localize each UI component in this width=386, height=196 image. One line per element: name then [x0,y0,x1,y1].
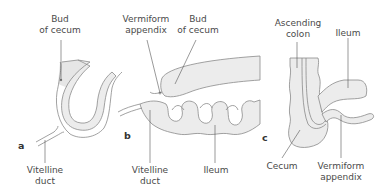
panel-b-drawing [118,56,260,135]
label-ileum-b: Ileum [203,165,228,176]
panel-letter-b: b [124,130,131,141]
label-bud-of-cecum-b: Bud of cecum [177,14,218,36]
label-bud-of-cecum-a: Bud of cecum [39,14,80,36]
panel-a-leaders [45,40,62,163]
diagram-figure: a b c Bud of cecum Vitelline duct Vermif… [0,0,386,196]
label-ascending-colon-c: Ascending colon [275,18,322,40]
panel-a-drawing [36,60,122,146]
panel-letter-a: a [18,140,24,151]
panel-letter-c: c [262,132,268,143]
label-vermiform-appendix-b: Vermiform appendix [123,14,170,36]
label-cecum-c: Cecum [266,161,297,172]
label-vermiform-appendix-c: Vermiform appendix [318,161,365,183]
label-vitelline-duct-b: Vitelline duct [132,165,168,187]
label-ileum-c: Ileum [335,28,360,39]
panel-c-drawing [289,58,374,147]
label-vitelline-duct-a: Vitelline duct [27,165,63,187]
